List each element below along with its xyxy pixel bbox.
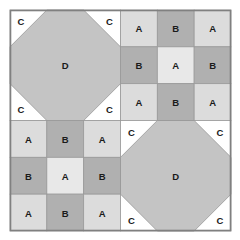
tile-b: [47, 121, 84, 158]
tile-label-c: C: [18, 104, 25, 115]
tile-label-c: C: [217, 127, 224, 138]
quadrant-top-left: DCCCC: [10, 10, 121, 121]
tile-label-c: C: [128, 127, 135, 138]
tile-label-c: C: [106, 16, 113, 27]
tile-a: [10, 121, 47, 158]
tile-label-c: C: [128, 215, 135, 226]
tile-a: [157, 47, 194, 84]
tile-b: [10, 157, 47, 194]
tile-a: [194, 10, 231, 47]
tile-b: [194, 47, 231, 84]
tile-a: [194, 84, 231, 121]
tile-a: [84, 194, 121, 231]
tiling-figure: DCCCCABABABABAABABABABADCCCC: [0, 0, 240, 240]
tile-b: [84, 157, 121, 194]
tile-label-c: C: [217, 215, 224, 226]
tile-a: [47, 157, 84, 194]
tile-a: [121, 10, 158, 47]
tile-label-c: C: [18, 16, 25, 27]
quadrant-top-right: ABABABABA: [121, 10, 231, 120]
quadrant-bottom-right: DCCCC: [121, 121, 232, 232]
tile-a: [84, 121, 121, 158]
tile-a: [10, 194, 47, 231]
quadrant-bottom-left: ABABABABA: [10, 121, 120, 231]
tile-b: [157, 10, 194, 47]
tile-b: [47, 194, 84, 231]
tiling-diagram: DCCCCABABABABAABABABABADCCCC: [0, 0, 240, 240]
tile-a: [121, 84, 158, 121]
tile-b: [157, 84, 194, 121]
tile-label-c: C: [106, 104, 113, 115]
tile-b: [121, 47, 158, 84]
